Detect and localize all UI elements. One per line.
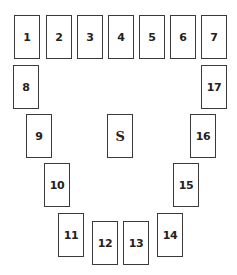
slot-6: 6 [170, 15, 196, 59]
slot-7: 7 [201, 15, 227, 59]
slot-10: 10 [44, 163, 70, 207]
slot-label: 16 [196, 130, 211, 143]
slot-label: 15 [179, 179, 194, 192]
slot-label: 17 [207, 81, 222, 94]
slot-13: 13 [123, 221, 149, 265]
slot-label: 13 [129, 237, 144, 250]
slot-s-center: S [107, 114, 133, 158]
slot-2: 2 [46, 15, 72, 59]
slot-label: 1 [23, 31, 30, 44]
slot-9: 9 [26, 114, 52, 158]
slot-3: 3 [77, 15, 103, 59]
slot-1: 1 [14, 15, 40, 59]
slot-label: 12 [98, 237, 113, 250]
slot-16: 16 [190, 114, 216, 158]
slot-12: 12 [92, 221, 118, 265]
slot-label: 10 [50, 179, 65, 192]
fuse-box-diagram: 1 2 3 4 5 6 7 8 9 10 11 12 13 14 15 16 1… [0, 0, 237, 275]
slot-label: 2 [55, 31, 62, 44]
slot-8: 8 [13, 65, 39, 109]
slot-11: 11 [58, 213, 84, 257]
slot-label: 3 [86, 31, 93, 44]
slot-label: 8 [22, 81, 29, 94]
slot-label: 5 [148, 31, 155, 44]
slot-14: 14 [157, 213, 183, 257]
slot-label: 14 [163, 229, 178, 242]
slot-5: 5 [139, 15, 165, 59]
slot-4: 4 [108, 15, 134, 59]
slot-label: 9 [35, 130, 42, 143]
slot-label: 7 [210, 31, 217, 44]
slot-label: 6 [179, 31, 186, 44]
slot-label: S [115, 129, 124, 144]
slot-15: 15 [173, 163, 199, 207]
slot-label: 11 [64, 229, 79, 242]
slot-17: 17 [201, 65, 227, 109]
slot-label: 4 [117, 31, 124, 44]
